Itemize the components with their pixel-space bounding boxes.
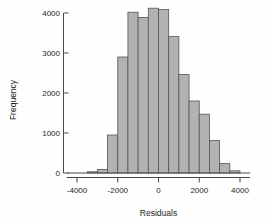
histogram-bar bbox=[169, 37, 179, 173]
histogram-figure: 01000200030004000 -4000-2000020004000 Re… bbox=[0, 0, 272, 224]
y-tick-label: 1000 bbox=[42, 129, 60, 138]
histogram-bar bbox=[209, 141, 219, 173]
histogram-svg: 01000200030004000 -4000-2000020004000 Re… bbox=[0, 0, 272, 224]
y-tick-label: 3000 bbox=[42, 49, 60, 58]
x-tick-labels: -4000-2000020004000 bbox=[67, 186, 250, 195]
y-tick-labels: 01000200030004000 bbox=[42, 9, 60, 178]
histogram-bar bbox=[220, 164, 230, 173]
x-tick-label: 2000 bbox=[190, 186, 208, 195]
histogram-bar bbox=[128, 12, 138, 173]
histogram-bar bbox=[108, 135, 118, 173]
histogram-bar bbox=[138, 17, 148, 173]
histogram-bar bbox=[179, 75, 189, 173]
histogram-bar bbox=[118, 57, 128, 173]
y-tick-label: 0 bbox=[56, 169, 61, 178]
histogram-bar bbox=[199, 114, 209, 173]
histogram-bar bbox=[148, 8, 158, 173]
y-tick-label: 4000 bbox=[42, 9, 60, 18]
plot-area: 01000200030004000 -4000-2000020004000 Re… bbox=[0, 0, 272, 224]
histogram-bar bbox=[189, 101, 199, 173]
x-tick-label: -4000 bbox=[67, 186, 88, 195]
x-tick-label: 4000 bbox=[231, 186, 249, 195]
bar-series bbox=[87, 8, 240, 173]
histogram-bar bbox=[159, 9, 169, 173]
histogram-bar bbox=[97, 169, 107, 173]
x-axis-title: Residuals bbox=[140, 208, 177, 218]
x-tick-label: 0 bbox=[156, 186, 161, 195]
y-axis bbox=[64, 13, 69, 173]
x-tick-label: -2000 bbox=[108, 186, 129, 195]
y-tick-label: 2000 bbox=[42, 89, 60, 98]
x-axis bbox=[67, 173, 250, 183]
y-axis-title: Frequency bbox=[8, 79, 18, 120]
